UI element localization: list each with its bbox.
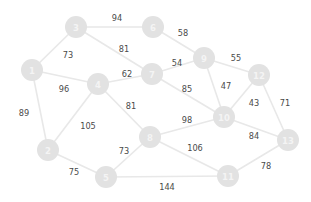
graph-edge xyxy=(48,84,98,150)
graph-node-13[interactable]: 13 xyxy=(277,129,299,151)
graph-node-9[interactable]: 9 xyxy=(193,47,215,69)
node-label: 6 xyxy=(150,23,156,33)
node-label: 3 xyxy=(73,23,79,33)
node-label: 5 xyxy=(103,173,109,183)
node-label: 11 xyxy=(222,172,234,182)
graph-node-1[interactable]: 1 xyxy=(21,59,43,81)
graph-node-12[interactable]: 12 xyxy=(248,64,270,86)
node-label: 12 xyxy=(253,71,265,81)
node-label: 10 xyxy=(218,113,230,123)
node-label: 8 xyxy=(147,133,153,143)
graph-node-2[interactable]: 2 xyxy=(37,139,59,161)
node-label: 7 xyxy=(149,70,155,80)
edge-weight-label: 73 xyxy=(63,50,73,60)
edge-weight-label: 106 xyxy=(187,143,203,153)
node-label: 13 xyxy=(282,136,294,146)
graph-edge xyxy=(152,74,224,117)
graph-node-3[interactable]: 3 xyxy=(65,16,87,38)
edge-weight-label: 96 xyxy=(59,84,69,94)
edge-weight-label: 81 xyxy=(126,101,136,111)
edge-weight-label: 55 xyxy=(231,53,241,63)
edge-weight-label: 98 xyxy=(182,115,192,125)
graph-node-4[interactable]: 4 xyxy=(87,73,109,95)
node-label: 1 xyxy=(29,66,35,76)
graph-diagram: 12345678910111213 7396891057594816281731… xyxy=(0,0,311,202)
graph-edge xyxy=(98,84,150,137)
graph-node-11[interactable]: 11 xyxy=(217,165,239,187)
graph-edge xyxy=(106,176,228,177)
node-label: 9 xyxy=(201,54,207,64)
edge-weight-label: 105 xyxy=(80,121,96,131)
graph-node-10[interactable]: 10 xyxy=(213,106,235,128)
graph-node-8[interactable]: 8 xyxy=(139,126,161,148)
edge-weight-label: 71 xyxy=(280,98,290,108)
graph-edge xyxy=(32,70,48,150)
graph-node-5[interactable]: 5 xyxy=(95,166,117,188)
graph-edge xyxy=(76,27,152,74)
edge-weight-label: 144 xyxy=(159,182,175,192)
edge-label-layer: 7396891057594816281731445854859810655474… xyxy=(19,13,290,192)
edge-weight-label: 62 xyxy=(122,69,132,79)
node-label: 2 xyxy=(45,146,51,156)
edge-weight-label: 78 xyxy=(261,161,271,171)
edge-weight-label: 75 xyxy=(69,167,79,177)
edge-weight-label: 58 xyxy=(178,28,188,38)
graph-node-7[interactable]: 7 xyxy=(141,63,163,85)
edge-weight-label: 73 xyxy=(119,146,129,156)
edge-weight-label: 47 xyxy=(221,81,231,91)
graph-canvas: 12345678910111213 7396891057594816281731… xyxy=(0,0,311,202)
edge-weight-label: 94 xyxy=(112,13,122,23)
edge-weight-label: 43 xyxy=(249,98,259,108)
edge-weight-label: 85 xyxy=(182,84,192,94)
edge-weight-label: 81 xyxy=(119,44,129,54)
node-label: 4 xyxy=(95,80,101,90)
edge-weight-label: 89 xyxy=(19,108,29,118)
graph-node-6[interactable]: 6 xyxy=(142,16,164,38)
edge-weight-label: 54 xyxy=(172,58,182,68)
edge-weight-label: 84 xyxy=(249,131,259,141)
